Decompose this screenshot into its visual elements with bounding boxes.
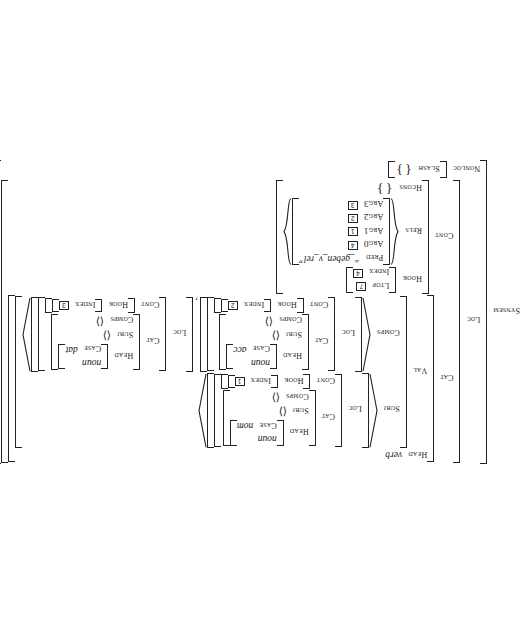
attr-arg2: ARG2 bbox=[358, 212, 384, 224]
row-head: HEAD bbox=[230, 419, 309, 446]
comps-hook-rows: INDEX 3 bbox=[59, 299, 95, 312]
subj-loc-avm: CAT bbox=[214, 374, 342, 447]
row-pred: PRED “_geben_v_rel” bbox=[299, 252, 383, 265]
rels-list: PRED “_geben_v_rel” ARG0 4 bbox=[283, 198, 399, 265]
comps-loc-avm: CAT bbox=[38, 298, 166, 371]
bracket-left bbox=[304, 374, 311, 389]
angle-close-icon bbox=[198, 373, 207, 448]
attr-index: INDEX bbox=[69, 300, 95, 312]
attr-arg0: ARG0 bbox=[358, 239, 384, 251]
bracket-right bbox=[15, 296, 22, 448]
bracket-left bbox=[400, 296, 407, 448]
bracket-right bbox=[207, 298, 214, 371]
row-cont: CONT bbox=[45, 298, 159, 314]
hcons-value: { } bbox=[376, 181, 393, 197]
attr-comps: COMPS bbox=[280, 392, 309, 404]
attr-cont: CONT bbox=[429, 231, 453, 243]
angle-close-icon bbox=[22, 297, 31, 372]
bracket-left bbox=[270, 344, 277, 370]
comps-case-value: dat bbox=[66, 345, 78, 356]
row-loc: LOC CAT bbox=[214, 373, 362, 448]
comps-element: LOC CAT bbox=[200, 297, 362, 372]
attr-index: INDEX bbox=[238, 300, 264, 312]
bracket-left bbox=[264, 299, 271, 312]
bracket-right bbox=[230, 420, 237, 446]
row-head-type: noun bbox=[66, 357, 102, 369]
loc-rows: CAT HEAD verb bbox=[8, 180, 453, 464]
row-rels: RELS bbox=[283, 198, 422, 266]
row-case: CASE dat bbox=[66, 344, 102, 357]
row-case: CASE acc bbox=[233, 344, 270, 357]
row-hook: HOOK bbox=[221, 298, 297, 313]
row-head: HEAD verb bbox=[15, 449, 427, 462]
attr-subj: SUBJ bbox=[287, 406, 309, 418]
attr-subj: SUBJ bbox=[378, 404, 400, 416]
bracket-left bbox=[480, 160, 487, 464]
comps-subj-empty-list: ⟨ ⟩ bbox=[273, 329, 280, 342]
subj-element-rows: LOC CAT bbox=[214, 373, 362, 448]
angle-open-icon bbox=[362, 297, 371, 372]
comps-cont-avm: HOOK bbox=[214, 298, 304, 313]
bracket-left bbox=[95, 299, 102, 312]
attr-cat: CAT bbox=[434, 373, 453, 385]
bracket-left bbox=[277, 420, 284, 446]
attr-comps: COMPS bbox=[371, 328, 400, 340]
synsem-avm: SYNSEM LOC CAT bbox=[0, 160, 520, 464]
cat-avm: HEAD verb VAL bbox=[8, 295, 434, 462]
bracket-left bbox=[453, 180, 460, 464]
bracket-right bbox=[219, 314, 226, 370]
attr-index: INDEX bbox=[245, 376, 271, 388]
row-slash: SLASH { } bbox=[395, 161, 439, 178]
bracket-right bbox=[0, 160, 1, 464]
row-hook: HOOK bbox=[228, 374, 304, 389]
attr-subj: SUBJ bbox=[111, 330, 133, 342]
bracket-left bbox=[297, 298, 304, 313]
comps-comps-empty-list: ⟨ ⟩ bbox=[266, 315, 273, 328]
tag-arg2: 2 bbox=[348, 214, 358, 223]
row-subj: SUBJ ⟨ ⟩ bbox=[226, 329, 302, 343]
row-ltop: LTOP 7 bbox=[353, 280, 389, 293]
bracket-left bbox=[101, 344, 108, 370]
row-cat: CAT bbox=[221, 390, 335, 447]
comps-loc-avm: CAT bbox=[207, 298, 335, 371]
row-comps: COMPS ⟨ ⟩ bbox=[226, 314, 302, 328]
attr-synsem: SYNSEM bbox=[487, 306, 520, 318]
attr-cont: CONT bbox=[304, 300, 328, 312]
attr-hook: HOOK bbox=[396, 274, 422, 286]
attr-hook: HOOK bbox=[102, 300, 128, 312]
pred-value: “_geben_v_rel” bbox=[299, 254, 360, 264]
comps-subj-empty-list: ⟨ ⟩ bbox=[104, 329, 111, 342]
row-arg3: ARG3 3 bbox=[299, 198, 383, 211]
head-value: verb bbox=[385, 450, 402, 461]
row-index: INDEX 2 bbox=[228, 299, 264, 312]
row-val: VAL SUBJ bbox=[15, 295, 427, 449]
attr-ltop: LTOP bbox=[366, 281, 389, 293]
comps-loc-rows: CAT bbox=[45, 298, 159, 371]
bracket-right bbox=[207, 373, 214, 448]
bracket-left bbox=[383, 198, 390, 265]
row-head-type: noun bbox=[237, 433, 277, 445]
bracket-left bbox=[362, 373, 369, 448]
bracket-right bbox=[346, 267, 353, 294]
attr-cat: CAT bbox=[316, 412, 335, 424]
bracket-right bbox=[38, 298, 45, 371]
comps-loc-rows: CAT bbox=[214, 298, 328, 371]
comps-list: LOC CAT bbox=[22, 297, 371, 372]
tag-ltop: 7 bbox=[356, 282, 366, 291]
row-subj: SUBJ bbox=[22, 372, 400, 448]
attr-cont: CONT bbox=[311, 376, 335, 388]
bracket-left bbox=[159, 298, 166, 371]
row-cat: CAT bbox=[214, 314, 328, 371]
comps-cat-avm: HEAD bbox=[52, 314, 141, 370]
row-loc: LOC CAT bbox=[38, 297, 186, 372]
row-case: CASE nom bbox=[237, 420, 277, 433]
bracket-right bbox=[52, 314, 59, 370]
row-arg0: ARG0 4 bbox=[299, 239, 383, 252]
tag-arg3: 3 bbox=[348, 201, 358, 210]
comps-hook-avm: INDEX 2 bbox=[221, 299, 271, 312]
comps-element-rows: LOC CAT bbox=[207, 297, 355, 372]
bracket-right bbox=[228, 375, 235, 388]
row-comps: COMPS ⟨ ⟩ bbox=[59, 314, 134, 328]
bracket-right bbox=[226, 344, 233, 370]
attr-loc: LOC bbox=[342, 404, 362, 416]
